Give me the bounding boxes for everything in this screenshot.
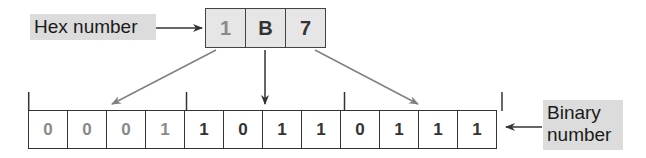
connector-arrows <box>0 0 646 158</box>
arrow-7-to-0111-icon <box>315 50 418 104</box>
arrow-1-to-0001-icon <box>112 50 216 104</box>
